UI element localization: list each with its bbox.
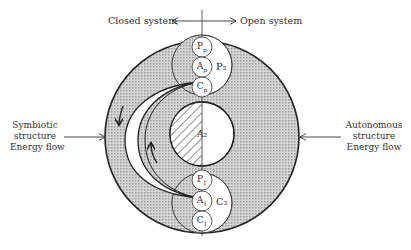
autonomous-line-2: structure: [344, 131, 404, 142]
symbiotic-line-1: Symbiotic: [10, 120, 60, 131]
open-system-label: Open system: [240, 15, 302, 26]
node-p2-label: P₂: [216, 61, 227, 72]
autonomous-line-1: Autonomous: [344, 120, 404, 131]
node-ap-label: Ap: [194, 61, 210, 75]
symbiotic-structure-label: Symbiotic structure Energy flow: [10, 120, 60, 153]
symbiotic-line-2: structure: [10, 131, 60, 142]
node-c1-label: C1: [194, 215, 210, 229]
autonomous-line-3: Energy flow: [344, 142, 404, 153]
node-cp-label: Cp: [194, 81, 210, 95]
closed-system-label: Closed system: [108, 15, 177, 26]
symbiotic-line-3: Energy flow: [10, 142, 60, 153]
node-a2-label: A₂: [194, 129, 210, 140]
node-pp-label: Pp: [194, 41, 210, 55]
node-p1-label: P1: [194, 174, 210, 188]
node-a1-label: A1: [194, 195, 210, 209]
autonomous-structure-label: Autonomous structure Energy flow: [344, 120, 404, 153]
node-c2-label: C₂: [216, 196, 228, 207]
